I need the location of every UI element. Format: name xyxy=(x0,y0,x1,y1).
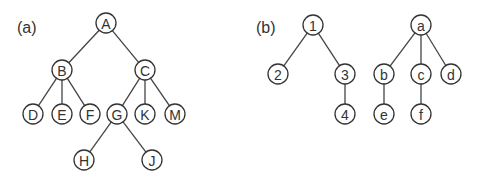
edges-layer xyxy=(39,30,446,152)
edge-C-G xyxy=(122,78,139,105)
tree-node-B: B xyxy=(52,60,72,80)
node-label: M xyxy=(169,107,181,123)
tree-node-F: F xyxy=(80,104,100,124)
panel-label-b: (b) xyxy=(256,19,276,36)
node-label: J xyxy=(149,153,156,169)
edge-B-F xyxy=(67,78,84,105)
tree-node-b: b xyxy=(374,64,394,84)
edge-G-H xyxy=(90,122,111,152)
edge-a-d xyxy=(426,34,446,66)
edge-1-2 xyxy=(284,33,307,66)
node-label: B xyxy=(57,63,66,79)
node-label: f xyxy=(419,107,423,123)
node-label: 4 xyxy=(341,107,349,123)
tree-node-M: M xyxy=(165,104,185,124)
node-label: A xyxy=(101,16,111,32)
tree-node-3: 3 xyxy=(335,64,355,84)
node-label: F xyxy=(86,107,95,123)
tree-node-c: c xyxy=(411,64,431,84)
node-label: e xyxy=(380,107,388,123)
edge-A-C xyxy=(112,31,138,63)
tree-node-E: E xyxy=(52,104,72,124)
tree-node-1: 1 xyxy=(303,15,323,35)
edge-B-D xyxy=(39,78,57,105)
tree-diagram: ABCDEFGKMHJ1234abcdef (a)(b) xyxy=(0,0,478,185)
edge-A-B xyxy=(69,30,99,62)
tree-node-C: C xyxy=(135,60,155,80)
node-label: K xyxy=(140,107,150,123)
node-label: C xyxy=(140,63,150,79)
panel-labels-layer: (a)(b) xyxy=(17,19,276,36)
node-label: 1 xyxy=(309,18,317,34)
node-label: D xyxy=(28,107,38,123)
tree-node-e: e xyxy=(374,104,394,124)
tree-node-2: 2 xyxy=(268,64,288,84)
tree-node-A: A xyxy=(96,13,116,33)
edge-a-b xyxy=(390,33,415,66)
node-label: H xyxy=(79,153,89,169)
node-label: G xyxy=(112,107,123,123)
edge-1-3 xyxy=(318,33,339,65)
edge-G-J xyxy=(123,122,146,152)
node-label: E xyxy=(57,107,66,123)
node-label: c xyxy=(418,67,425,83)
node-label: 3 xyxy=(341,67,349,83)
nodes-layer: ABCDEFGKMHJ1234abcdef xyxy=(23,13,461,170)
tree-node-a: a xyxy=(411,15,431,35)
tree-node-G: G xyxy=(107,104,127,124)
node-label: b xyxy=(380,67,388,83)
panel-label-a: (a) xyxy=(17,19,37,36)
tree-node-f: f xyxy=(411,104,431,124)
node-label: 2 xyxy=(274,67,282,83)
tree-node-4: 4 xyxy=(335,104,355,124)
tree-node-D: D xyxy=(23,104,43,124)
tree-node-J: J xyxy=(142,150,162,170)
node-label: d xyxy=(447,67,455,83)
node-label: a xyxy=(417,18,425,34)
tree-node-K: K xyxy=(135,104,155,124)
edge-C-M xyxy=(151,78,170,105)
tree-node-H: H xyxy=(74,150,94,170)
tree-node-d: d xyxy=(441,64,461,84)
